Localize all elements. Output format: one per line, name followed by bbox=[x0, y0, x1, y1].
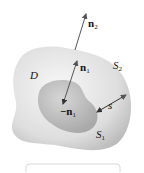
normal-n2-arrow bbox=[75, 14, 86, 50]
diagram-canvas bbox=[0, 0, 144, 173]
label-neg-n1: −n1 bbox=[60, 106, 76, 119]
label-s2: S2 bbox=[113, 60, 122, 73]
frame-edge bbox=[26, 164, 120, 172]
label-n2: n2 bbox=[88, 18, 98, 31]
label-s1: S1 bbox=[96, 129, 105, 142]
label-region-d: D bbox=[30, 70, 38, 81]
label-n1: n1 bbox=[80, 62, 90, 75]
label-separation-s: s bbox=[108, 100, 112, 111]
